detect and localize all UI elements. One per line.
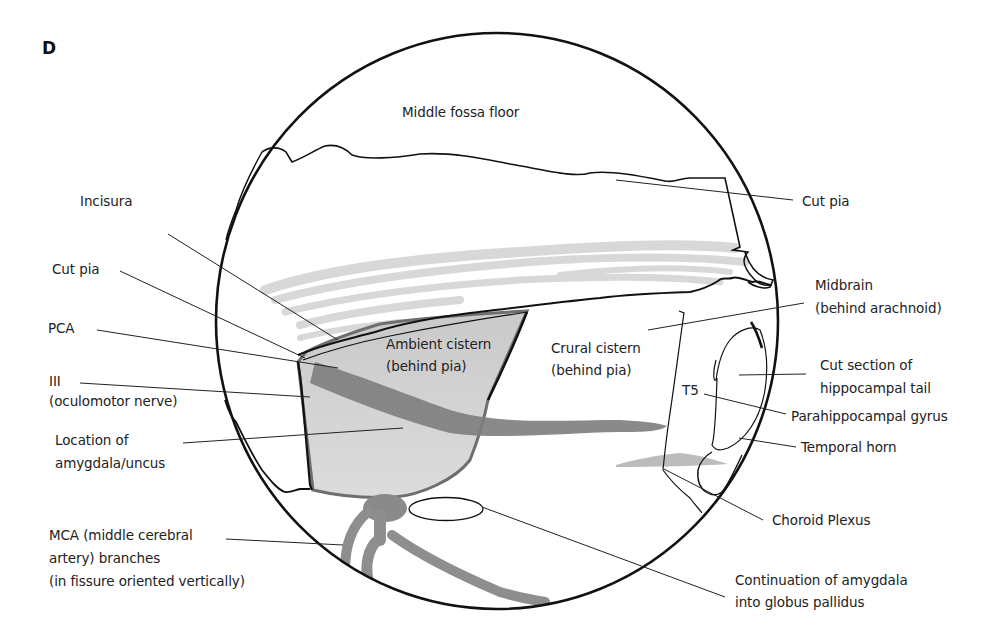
choroid-plexus-shape [616,453,728,467]
label-crural-cistern: Crural cistern [551,340,641,357]
label-middle-fossa-floor: Middle fossa floor [402,104,519,121]
label-cut-pia-right: Cut pia [802,193,849,210]
label-amygdala-line2: amygdala/uncus [55,455,165,472]
label-crural-cistern-sub: (behind pia) [551,362,632,379]
hippocampal-tail-outline [712,328,767,450]
label-mca-line1: MCA (middle cerebral [49,527,193,544]
label-globus-pallidus-line2: into globus pallidus [735,594,864,611]
label-globus-pallidus-line1: Continuation of amygdala [735,572,908,589]
label-cut-pia-left: Cut pia [52,261,99,278]
label-parahippocampal-gyrus: Parahippocampal gyrus [791,408,948,425]
panel-letter: D [42,38,56,58]
globus-pallidus-ellipse [409,498,483,521]
label-iii-sub: (oculomotor nerve) [49,393,178,410]
label-iii: III [49,373,61,390]
label-mca-line3: (in fissure oriented vertically) [49,573,245,590]
label-pca: PCA [48,320,75,337]
label-hippocampal-tail-line2: hippocampal tail [820,380,931,397]
label-hippocampal-tail-line1: Cut section of [820,357,912,374]
label-t5: T5 [682,382,699,399]
label-midbrain-sub: (behind arachnoid) [815,300,942,317]
label-ambient-cistern-sub: (behind pia) [386,358,467,375]
label-amygdala-line1: Location of [55,432,128,449]
label-incisura: Incisura [80,193,132,210]
hippocampal-dark-stroke [751,322,762,348]
label-midbrain: Midbrain [815,277,873,294]
anatomical-diagram: D Middle fossa floor Incisura Cut pia PC… [0,0,999,639]
label-temporal-horn: Temporal horn [801,439,897,456]
label-ambient-cistern: Ambient cistern [386,336,491,353]
left-inner-edge [225,400,310,492]
label-mca-line2: artery) branches [49,550,160,567]
label-choroid-plexus: Choroid Plexus [772,512,871,529]
midbrain-boundary [663,311,702,513]
